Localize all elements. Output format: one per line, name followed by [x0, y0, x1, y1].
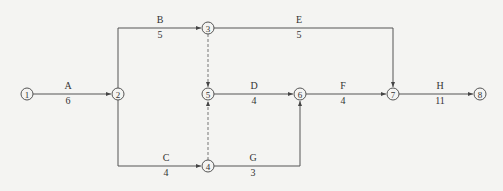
activity-f: F 4	[306, 80, 386, 106]
activity-h: H 11	[399, 80, 473, 106]
node-1-label: 1	[25, 90, 30, 100]
node-3-label: 3	[206, 24, 211, 34]
node-2: 2	[112, 88, 124, 100]
node-8: 8	[474, 88, 486, 100]
activity-e: E 5	[214, 14, 393, 87]
activity-g-label: G	[249, 152, 256, 163]
activity-a-label: A	[64, 80, 72, 91]
activity-c: C 4	[118, 100, 201, 178]
activity-b: B 5	[118, 14, 201, 88]
activity-d: D 4	[214, 80, 293, 106]
activity-d-duration: 4	[252, 95, 257, 106]
activity-b-duration: 5	[158, 29, 163, 40]
activity-g-duration: 3	[251, 167, 256, 178]
activity-d-label: D	[250, 80, 257, 91]
activity-f-duration: 4	[341, 95, 346, 106]
node-7: 7	[387, 88, 399, 100]
node-5-label: 5	[206, 90, 211, 100]
network-svg: A 6 B 5 C 4 D 4 E 5 F 4 G 3	[0, 0, 503, 191]
activity-g: G 3	[214, 101, 300, 178]
node-2-label: 2	[116, 90, 121, 100]
network-diagram: A 6 B 5 C 4 D 4 E 5 F 4 G 3	[0, 0, 503, 191]
activity-e-label: E	[296, 14, 302, 25]
activity-c-duration: 4	[164, 167, 169, 178]
node-6-label: 6	[298, 90, 303, 100]
node-3: 3	[202, 22, 214, 34]
activity-b-label: B	[157, 14, 164, 25]
node-5: 5	[202, 88, 214, 100]
activity-e-duration: 5	[297, 29, 302, 40]
activity-a: A 6	[33, 80, 111, 106]
node-6: 6	[294, 88, 306, 100]
activity-c-label: C	[163, 152, 170, 163]
activity-h-duration: 11	[435, 95, 445, 106]
node-4-label: 4	[206, 162, 211, 172]
node-4: 4	[202, 160, 214, 172]
activity-f-label: F	[340, 80, 346, 91]
node-1: 1	[21, 88, 33, 100]
activity-h-label: H	[436, 80, 443, 91]
activity-a-duration: 6	[66, 95, 71, 106]
node-8-label: 8	[478, 90, 483, 100]
node-7-label: 7	[391, 90, 396, 100]
